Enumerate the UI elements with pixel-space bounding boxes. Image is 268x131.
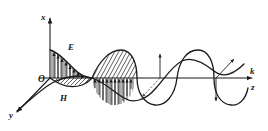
electric-field-label: E [67, 42, 74, 52]
y-axis-label: y [8, 110, 14, 120]
e-field-arrows-1 [54, 53, 82, 79]
em-wave-diagram: x O y k z E H [0, 0, 268, 131]
h-field-lobe-2 [94, 74, 133, 110]
em-wave-figure: x O y k z E H [0, 0, 268, 131]
origin-label: O [38, 74, 45, 84]
magnetic-field-label: H [59, 93, 68, 103]
x-axis-label: x [40, 12, 46, 22]
k-vector-label: k [250, 66, 255, 76]
z-axis-label: z [250, 82, 255, 92]
h-field-arrows-2 [95, 79, 131, 105]
